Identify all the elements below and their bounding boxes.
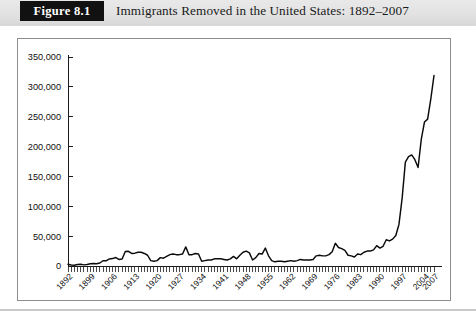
x-axis-tick-label: 1920 [143,271,163,291]
y-axis-tick-label: 300,000 [28,82,61,92]
y-axis-tick-label: 250,000 [28,112,61,122]
x-axis-tick-label: 1899 [76,271,96,291]
y-axis-tick-label: 200,000 [28,142,61,152]
figure-caption: Immigrants Removed in the United States:… [116,1,409,21]
x-axis-tick-label: 1997 [388,271,408,291]
x-axis-tick-label: 1969 [299,271,319,291]
x-axis-tick-label: 1913 [121,271,141,291]
figure-header: Figure 8.1 Immigrants Removed in the Uni… [0,0,476,26]
x-axis-tick-label: 1941 [210,271,230,291]
figure-number-badge: Figure 8.1 [20,1,104,21]
x-axis-tick-label: 1990 [366,271,386,291]
x-axis-tick-label: 1934 [188,271,208,291]
y-axis-tick-label: 50,000 [33,232,61,242]
x-axis-tick-label: 1892 [54,271,74,291]
y-axis-tick-label: 0 [56,261,61,271]
x-axis-tick-label: 1948 [232,271,252,291]
x-axis-tick-label: 1976 [322,271,342,291]
y-axis-tick-label: 150,000 [28,172,61,182]
line-chart: 050,000100,000150,000200,000250,000300,0… [18,39,450,300]
x-axis-tick-label: 1955 [255,271,275,291]
page-bottom-rule [0,309,476,311]
y-axis-tick-label: 350,000 [28,52,61,62]
y-axis-tick-label: 100,000 [28,202,61,212]
x-axis-tick-label: 1962 [277,271,297,291]
chart-plot-frame: 050,000100,000150,000200,000250,000300,0… [17,38,451,301]
x-axis-tick-label: 1983 [344,271,364,291]
x-axis-tick-label: 1906 [99,271,119,291]
x-axis-tick-label: 1927 [166,271,186,291]
data-series-line [68,76,434,266]
